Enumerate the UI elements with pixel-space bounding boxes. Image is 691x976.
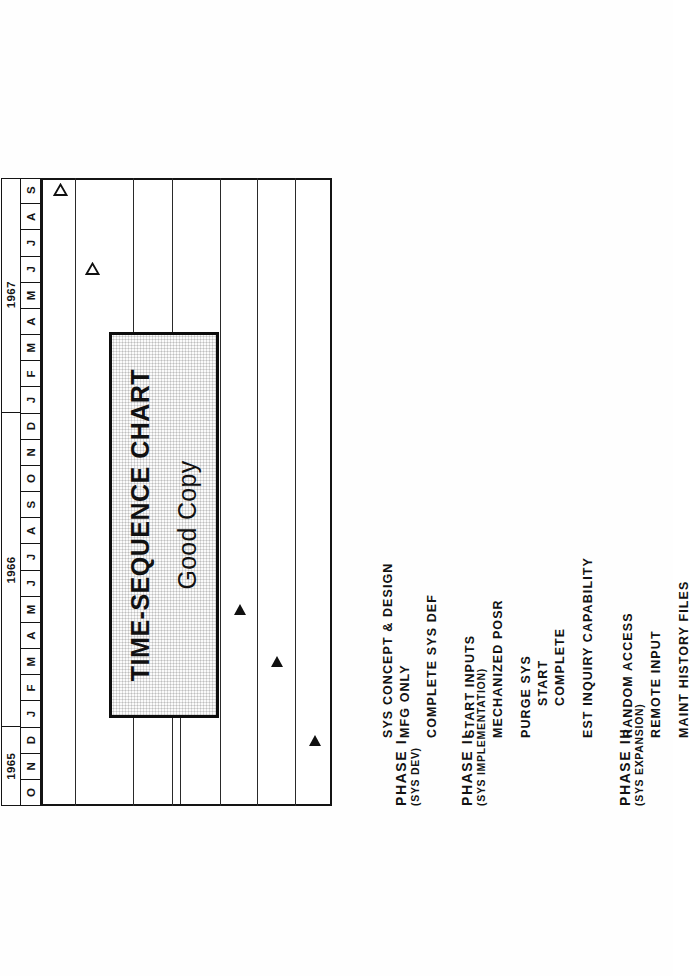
month-cell-1966-14: N — [21, 439, 40, 465]
task-label-phase1-sub: (SYS DEV) — [409, 747, 421, 806]
task-label-purge-sys: PURGE SYS — [519, 655, 533, 738]
month-cell-1967-17: F — [21, 360, 40, 386]
chart-title: TIME-SEQUENCE CHART — [126, 369, 155, 681]
month-cell-1965-3: D — [21, 727, 40, 753]
year-label-1967: 1967 — [5, 281, 17, 308]
month-cell-1966-9: J — [21, 570, 40, 596]
task-label-random-access: RANDOM ACCESS — [621, 612, 635, 738]
title-plate: TIME-SEQUENCE CHART Good Copy — [109, 332, 219, 718]
task-label-column: PHASE I(SYS DEV)SYS CONCEPT & DESIGNMFG … — [341, 178, 641, 806]
milestone-open-triangle-icon — [85, 262, 100, 276]
month-cell-1966-4: J — [21, 700, 40, 726]
task-label-mfg-only: MFG ONLY — [398, 664, 412, 738]
month-cell-1967-16: J — [21, 386, 40, 412]
time-sequence-chart: 1965 1966 1967 ONDJFMAMJJASONDJFMAMJJAS … — [1, 178, 651, 806]
month-cell-1966-13: O — [21, 465, 40, 491]
month-cell-1966-12: S — [21, 491, 40, 517]
month-cell-1966-15: D — [21, 413, 40, 439]
month-cell-1967-19: A — [21, 308, 40, 334]
month-cell-1965-1: O — [21, 779, 40, 805]
month-cell-1966-5: F — [21, 674, 40, 700]
task-label-est-inquiry: EST INQUIRY CAPABILITY — [581, 557, 595, 738]
task-label-sys-concept: SYS CONCEPT & DESIGN — [381, 563, 395, 739]
year-axis-band: 1965 1966 1967 — [1, 178, 21, 806]
chart-rotation-wrapper: 1965 1966 1967 ONDJFMAMJJASONDJFMAMJJAS … — [0, 4, 662, 976]
month-cell-1967-20: M — [21, 282, 40, 308]
year-cell-1966: 1966 — [2, 413, 20, 727]
task-label-phase2: PHASE II — [459, 733, 475, 806]
month-cell-1966-11: A — [21, 517, 40, 543]
month-cell-1967-23: A — [21, 203, 40, 229]
month-cell-1967-18: M — [21, 334, 40, 360]
year-cell-1967: 1967 — [2, 177, 20, 413]
month-cell-1966-7: A — [21, 622, 40, 648]
month-axis-band: ONDJFMAMJJASONDJFMAMJJAS — [21, 178, 41, 806]
milestone-solid-triangle-icon — [234, 604, 246, 615]
month-cell-1966-8: M — [21, 596, 40, 622]
year-cell-1965: 1965 — [2, 727, 20, 806]
task-label-complete-sys-def: COMPLETE SYS DEF — [425, 594, 439, 738]
month-cell-1967-21: J — [21, 256, 40, 282]
task-label-start: START — [536, 660, 550, 706]
row-separator — [75, 178, 76, 806]
task-label-remote-input: REMOTE INPUT — [649, 630, 663, 738]
task-label-phase1: PHASE I — [393, 739, 409, 806]
task-label-phase3: PHASE III — [617, 728, 633, 806]
milestone-open-triangle-icon — [53, 183, 68, 197]
row-separator — [257, 178, 258, 806]
month-cell-1966-10: J — [21, 543, 40, 569]
row-separator — [295, 178, 296, 806]
month-cell-1967-22: J — [21, 229, 40, 255]
chart-subtitle: Good Copy — [173, 460, 202, 589]
task-label-mechanized-posr: MECHANIZED POSR — [491, 599, 505, 738]
year-label-1966: 1966 — [5, 557, 17, 584]
milestone-solid-triangle-icon — [309, 735, 321, 746]
year-label-1965: 1965 — [5, 753, 17, 780]
row-separator — [220, 178, 221, 806]
task-label-complete: COMPLETE — [553, 628, 567, 706]
month-cell-1967-24: S — [21, 177, 40, 203]
milestone-solid-triangle-icon — [271, 656, 283, 667]
month-cell-1965-2: N — [21, 753, 40, 779]
month-cell-1966-6: M — [21, 648, 40, 674]
task-label-maint-history: MAINT HISTORY FILES — [677, 581, 691, 738]
task-label-start-inputs: START INPUTS — [463, 635, 477, 738]
